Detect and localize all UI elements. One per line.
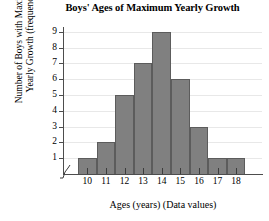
x-axis-tick	[180, 168, 181, 174]
bar	[115, 95, 134, 174]
y-axis-title: Number of Boys with Maximum Yearly Growt…	[11, 0, 39, 121]
chart-title: Boys' Ages of Maximum Yearly Growth	[40, 2, 265, 13]
y-axis-tick-label: 9	[43, 27, 57, 37]
bar	[190, 127, 209, 174]
y-axis-tick-label: 8	[43, 43, 57, 53]
bar-series	[63, 26, 265, 174]
x-axis-tick	[125, 168, 126, 174]
y-axis-tick-label: 1	[43, 153, 57, 163]
y-axis-tick-label: 7	[43, 58, 57, 68]
x-axis-tick-label: 18	[225, 177, 247, 187]
bar	[152, 32, 171, 174]
y-axis-tick-label: 6	[43, 74, 57, 84]
y-axis-tick-label: 3	[43, 122, 57, 132]
x-axis-tick	[199, 168, 200, 174]
bar	[171, 79, 190, 174]
y-axis-tick-label: 5	[43, 90, 57, 100]
y-axis-tick-label: 2	[43, 137, 57, 147]
x-axis-tick	[87, 168, 88, 174]
x-axis-tick	[218, 168, 219, 174]
bar	[134, 63, 153, 174]
x-axis-tick	[236, 168, 237, 174]
y-axis-title-line-1: Number of Boys with Maximum	[14, 0, 25, 103]
y-axis-tick-label: 4	[43, 106, 57, 116]
x-axis-title: Ages (years) (Data values)	[63, 199, 263, 210]
axis-break-icon	[58, 163, 72, 179]
y-axis-title-line-2: Yearly Growth (frequency)	[25, 0, 36, 93]
x-axis-tick	[162, 168, 163, 174]
x-axis-line	[63, 174, 263, 175]
x-axis-tick	[143, 168, 144, 174]
histogram-chart: Boys' Ages of Maximum Yearly Growth Numb…	[0, 0, 269, 221]
x-axis-tick	[106, 168, 107, 174]
